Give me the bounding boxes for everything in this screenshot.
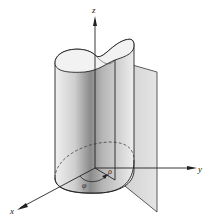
x-axis-label: x bbox=[9, 206, 14, 216]
y-axis-arrowhead bbox=[187, 166, 197, 170]
z-axis-arrowhead bbox=[93, 16, 97, 26]
phi-label: φ bbox=[82, 181, 87, 190]
rho-cylinder-surface bbox=[55, 39, 134, 193]
x-axis-arrowhead bbox=[17, 203, 28, 210]
z-axis-label: z bbox=[91, 5, 96, 15]
y-axis-label: y bbox=[197, 164, 202, 174]
cylindrical-coordinates-diagram: z y x ρ φ bbox=[0, 0, 209, 222]
rho-label: ρ bbox=[107, 167, 112, 176]
